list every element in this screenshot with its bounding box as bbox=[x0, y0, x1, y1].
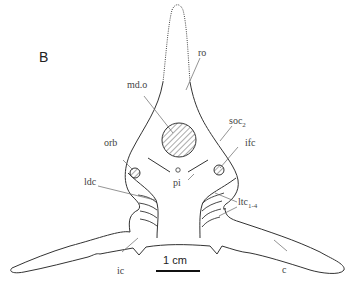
anatomical-diagram: B ro md.o soc2 orb ifc pi ldc ltc1-4 ic … bbox=[0, 0, 351, 281]
label-soc-subscript: 2 bbox=[242, 121, 246, 129]
label-soc2: soc2 bbox=[229, 116, 246, 129]
rostrum-outline bbox=[163, 5, 190, 82]
label-orb: orb bbox=[104, 138, 117, 148]
ltc-ridges bbox=[202, 193, 224, 227]
oblique-line-right bbox=[188, 160, 208, 172]
label-pi: pi bbox=[173, 178, 181, 188]
label-ifc: ifc bbox=[245, 138, 256, 148]
label-c: c bbox=[282, 265, 286, 275]
oblique-line-left bbox=[148, 158, 170, 172]
orbit-right bbox=[214, 165, 224, 175]
label-ldc: ldc bbox=[84, 177, 96, 187]
label-ic: ic bbox=[117, 266, 124, 276]
inner-left-curve bbox=[128, 173, 158, 238]
label-ltc-subscript: 1-4 bbox=[248, 202, 257, 210]
label-ro: ro bbox=[198, 48, 206, 58]
pineal-opening bbox=[176, 168, 180, 172]
label-md-o: md.o bbox=[127, 80, 147, 90]
orbit-left bbox=[130, 168, 140, 178]
label-soc-text: soc bbox=[229, 115, 242, 126]
md-o-circle bbox=[162, 123, 196, 157]
label-ltc-text: ltc bbox=[238, 196, 248, 207]
skull-drawing bbox=[0, 0, 351, 281]
scale-bar-label: 1 cm bbox=[163, 254, 187, 266]
skull-outline-right bbox=[190, 82, 238, 209]
label-ltc: ltc1-4 bbox=[238, 197, 257, 210]
panel-label: B bbox=[39, 49, 48, 65]
